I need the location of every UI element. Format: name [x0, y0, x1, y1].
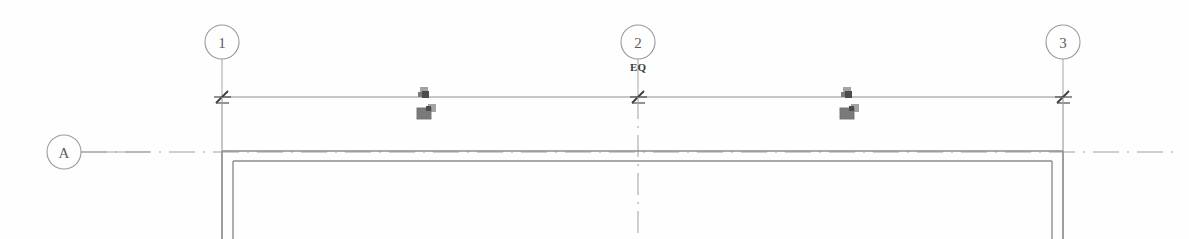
grid-bubble-1[interactable]: 1: [205, 25, 239, 59]
grid-bubble-a[interactable]: A: [47, 135, 81, 169]
vertical-grid-lines[interactable]: [222, 97, 1063, 239]
grid-bubble-label-2: 2: [634, 35, 642, 51]
grid-leader-stems: [81, 59, 1063, 152]
grid-bubble-label-3: 3: [1059, 35, 1067, 51]
horizontal-grid-lines[interactable]: [81, 151, 1180, 152]
symbol-marker-lower-left[interactable]: [417, 104, 436, 119]
drawing-sheet: 1 2 3 A EQ: [0, 0, 1189, 239]
grid-bubble-label-a: A: [59, 145, 70, 161]
wall-outline[interactable]: [222, 151, 1063, 239]
grid-bubble-2[interactable]: 2: [621, 25, 655, 59]
symbol-marker-upper-right[interactable]: [841, 87, 852, 98]
symbol-marker-upper-left[interactable]: [418, 87, 429, 98]
grid-bubble-label-1: 1: [218, 35, 226, 51]
dimension-line-group[interactable]: [214, 91, 1072, 103]
symbol-marker-lower-right[interactable]: [840, 104, 859, 119]
grid-bubble-3[interactable]: 3: [1046, 25, 1080, 59]
plan-canvas[interactable]: 1 2 3 A EQ: [0, 0, 1189, 239]
eq-dimension-label: EQ: [630, 61, 646, 73]
